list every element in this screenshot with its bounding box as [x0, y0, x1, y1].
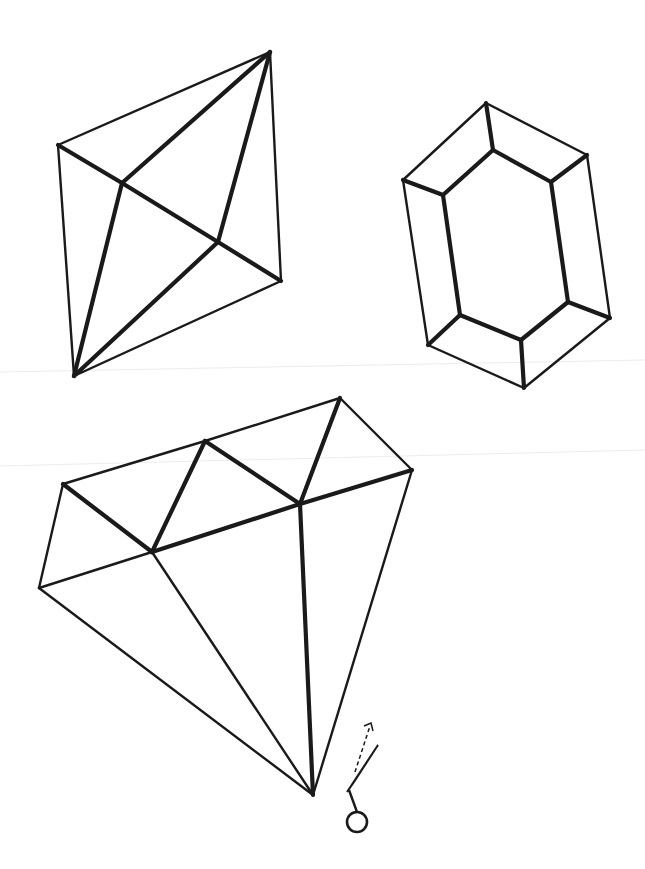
dashed-arrow-icon [355, 726, 370, 772]
ring-icon [347, 812, 367, 832]
drawing-canvas [0, 0, 645, 869]
emerald-cut-gem [403, 103, 610, 388]
scan-line [0, 450, 645, 466]
blade-icon [347, 745, 378, 792]
octahedron-gem [58, 52, 281, 376]
cut-here-marker [347, 723, 378, 832]
